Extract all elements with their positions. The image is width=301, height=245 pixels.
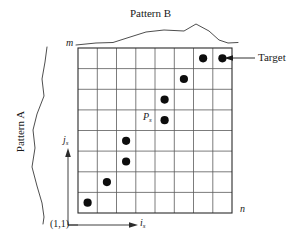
point-ps-label: Ps	[143, 112, 152, 122]
grid-lines	[78, 48, 232, 213]
axis-label-vertical: js	[63, 135, 69, 145]
target-dot	[218, 54, 226, 62]
axis-label-vertical-subscript: s	[66, 139, 69, 147]
path-dot	[84, 199, 92, 207]
path-dot	[122, 157, 130, 165]
path-dot	[103, 178, 111, 186]
target-callout-arrow	[224, 55, 255, 61]
axis-label-horizontal: is	[140, 218, 146, 228]
path-dot	[122, 137, 130, 145]
path-dot	[199, 54, 207, 62]
pattern-b-waveform	[76, 24, 238, 45]
origin-label: (1,1)	[50, 219, 69, 229]
path-dot	[161, 116, 169, 124]
target-annotation-label: Target	[258, 52, 286, 63]
pattern-b-title: Pattern B	[0, 8, 301, 19]
pattern-a-title: Pattern A	[15, 92, 26, 172]
axis-max-horizontal-label: n	[240, 204, 245, 214]
axis-label-horizontal-subscript: s	[143, 222, 146, 230]
path-dot	[161, 96, 169, 104]
figure-container: Pattern B Pattern A m n (1,1) Target Ps …	[0, 0, 301, 245]
pattern-a-waveform	[32, 47, 47, 224]
point-ps-subscript: s	[149, 116, 152, 124]
axis-max-vertical-label: m	[66, 38, 73, 48]
path-dot	[180, 75, 188, 83]
